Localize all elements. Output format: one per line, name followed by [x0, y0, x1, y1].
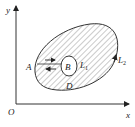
y-axis-label: y — [5, 5, 10, 15]
point-a-label: A — [25, 62, 32, 72]
region-d-label: D — [65, 81, 73, 91]
diagram-canvas: y x O A B D L1 L2 — [0, 0, 135, 127]
x-axis-label: x — [125, 110, 130, 120]
curve-l2-label: L2 — [117, 55, 126, 66]
point-b-label: B — [65, 62, 71, 72]
region-diagram: y x O A B D L1 L2 — [0, 0, 135, 127]
shaded-region-d — [35, 24, 118, 91]
origin-label: O — [8, 107, 15, 117]
